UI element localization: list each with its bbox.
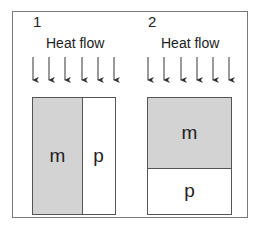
panel-1-box: m p [32, 97, 116, 215]
panel-2-arrows [148, 57, 229, 80]
panel-1-region-m: m [33, 98, 83, 214]
panel-2-region-p: p [148, 169, 231, 213]
panel-2-region-m: m [148, 98, 231, 169]
region-m-label: m [182, 122, 198, 144]
region-p-label: p [184, 180, 195, 202]
panel-2-box: m p [147, 97, 232, 215]
panel-1-region-p: p [83, 98, 114, 214]
region-m-label: m [50, 145, 66, 167]
region-p-label: p [93, 145, 104, 167]
panel-1-arrows [33, 57, 114, 80]
